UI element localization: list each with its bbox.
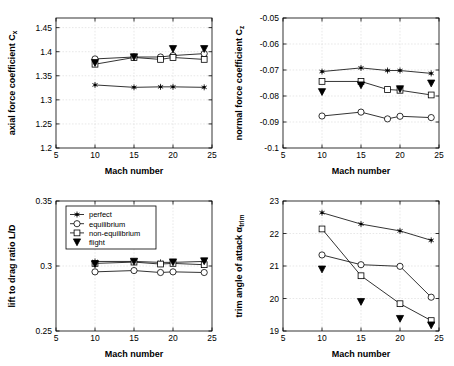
svg-text:axial force coefficient Cx: axial force coefficient Cx <box>7 30 18 135</box>
series-perfect <box>319 210 433 244</box>
series-flight <box>318 266 434 329</box>
series-line <box>322 81 431 95</box>
data-point <box>131 267 137 273</box>
data-point <box>357 82 364 89</box>
ytick-label: 20 <box>270 294 280 304</box>
xtick-label: 20 <box>395 333 405 343</box>
legend-label-flight: flight <box>89 238 106 247</box>
gridlines <box>56 18 212 148</box>
xtick-label: 25 <box>207 333 217 343</box>
xtick-label: 5 <box>54 150 59 160</box>
ytick-label: 22 <box>270 229 280 239</box>
ytick-label: -0.1 <box>264 143 279 153</box>
series-line <box>95 85 204 87</box>
legend: perfectequilibriumnon-equilibriumflight <box>66 206 156 249</box>
data-point <box>397 263 403 269</box>
data-point <box>318 89 325 96</box>
series-non-equilibrium <box>92 55 207 68</box>
ytick-label: 21 <box>270 261 280 271</box>
data-point <box>396 315 403 322</box>
data-point <box>358 109 364 115</box>
series-non-equilibrium <box>319 226 434 323</box>
series-line <box>95 262 204 265</box>
data-point <box>201 269 207 275</box>
plot-normal-force: 510152025-0.1-0.09-0.08-0.07-0.06-0.05Ma… <box>227 0 454 183</box>
data-point <box>319 79 325 85</box>
data-point <box>319 226 325 232</box>
xtick-label: 15 <box>129 150 139 160</box>
ytick-label: -0.07 <box>260 65 280 75</box>
xtick-label: 10 <box>90 333 100 343</box>
series-equilibrium <box>319 252 434 300</box>
xtick-label: 25 <box>434 150 444 160</box>
data-point <box>428 114 434 120</box>
axis-ticks: 5101520251.21.251.31.351.41.45 <box>35 18 217 160</box>
data-point <box>158 57 164 63</box>
series-line <box>95 261 204 262</box>
axis-ticks: 5101520251920212223 <box>270 196 444 343</box>
legend-marker-square <box>74 230 80 236</box>
series-non-equilibrium <box>92 259 207 267</box>
data-point <box>358 273 364 279</box>
xtick-label: 10 <box>317 333 327 343</box>
data-point <box>429 237 434 243</box>
series-line <box>322 255 431 297</box>
legend-marker-circle <box>74 221 80 227</box>
subplot-normal-force: 510152025-0.1-0.09-0.08-0.07-0.06-0.05Ma… <box>227 0 454 183</box>
y-axis-label: normal force coefficient Cz <box>234 25 245 140</box>
data-point <box>170 269 176 275</box>
ytick-label: 1.45 <box>35 23 52 33</box>
data-point <box>428 92 434 98</box>
subplot-axial-force: 5101520251.21.251.31.351.41.45Mach numbe… <box>0 0 227 183</box>
ytick-label: -0.05 <box>260 13 280 23</box>
xtick-label: 10 <box>317 150 327 160</box>
x-axis-label: Mach number <box>105 349 164 359</box>
y-axis-label: trim angle of attack αtrim <box>234 214 245 317</box>
series-equilibrium <box>92 51 207 62</box>
series-perfect <box>92 82 206 90</box>
xtick-label: 20 <box>168 150 178 160</box>
data-point <box>428 80 435 87</box>
figure-panel-grid: 5101520251.21.251.31.351.41.45Mach numbe… <box>0 0 454 366</box>
data-point <box>357 299 364 306</box>
data-point <box>358 262 364 268</box>
data-point <box>428 322 435 329</box>
data-point <box>92 269 98 275</box>
xtick-label: 25 <box>207 150 217 160</box>
series-non-equilibrium <box>319 79 434 98</box>
ytick-label: 0.35 <box>35 196 52 206</box>
x-axis-label: Mach number <box>332 166 391 176</box>
x-axis-label: Mach number <box>332 349 391 359</box>
svg-text:lift to drag ratio L/D: lift to drag ratio L/D <box>7 224 17 307</box>
ytick-label: -0.08 <box>260 91 280 101</box>
xtick-label: 15 <box>129 333 139 343</box>
y-axis-label: lift to drag ratio L/D <box>7 224 17 307</box>
data-point <box>384 116 390 122</box>
data-point <box>319 252 325 258</box>
plot-trim-angle: 5101520251920212223Mach numbertrim angle… <box>227 183 454 366</box>
data-point <box>428 294 434 300</box>
y-axis-label: axial force coefficient Cx <box>7 30 18 135</box>
svg-text:trim angle of attack αtrim: trim angle of attack αtrim <box>234 214 245 317</box>
ytick-label: -0.09 <box>260 117 280 127</box>
xtick-label: 10 <box>90 150 100 160</box>
series-line <box>322 229 431 321</box>
x-axis-label: Mach number <box>105 166 164 176</box>
series-flight <box>91 46 207 67</box>
xtick-label: 20 <box>395 150 405 160</box>
svg-text:normal force coefficient Cz: normal force coefficient Cz <box>234 25 245 140</box>
ytick-label: 0.25 <box>35 326 52 336</box>
data-point <box>397 113 403 119</box>
xtick-label: 20 <box>168 333 178 343</box>
series-equilibrium <box>319 109 434 122</box>
xtick-label: 15 <box>356 333 366 343</box>
ytick-label: 1.35 <box>35 71 52 81</box>
series-line <box>322 112 431 119</box>
xtick-label: 15 <box>356 150 366 160</box>
ytick-label: 23 <box>270 196 280 206</box>
xtick-label: 5 <box>281 150 286 160</box>
plot-lift-to-drag: 5101520250.250.30.35Mach numberlift to d… <box>0 183 227 366</box>
data-point <box>319 210 324 216</box>
series-perfect <box>319 65 433 76</box>
series-equilibrium <box>92 267 207 275</box>
